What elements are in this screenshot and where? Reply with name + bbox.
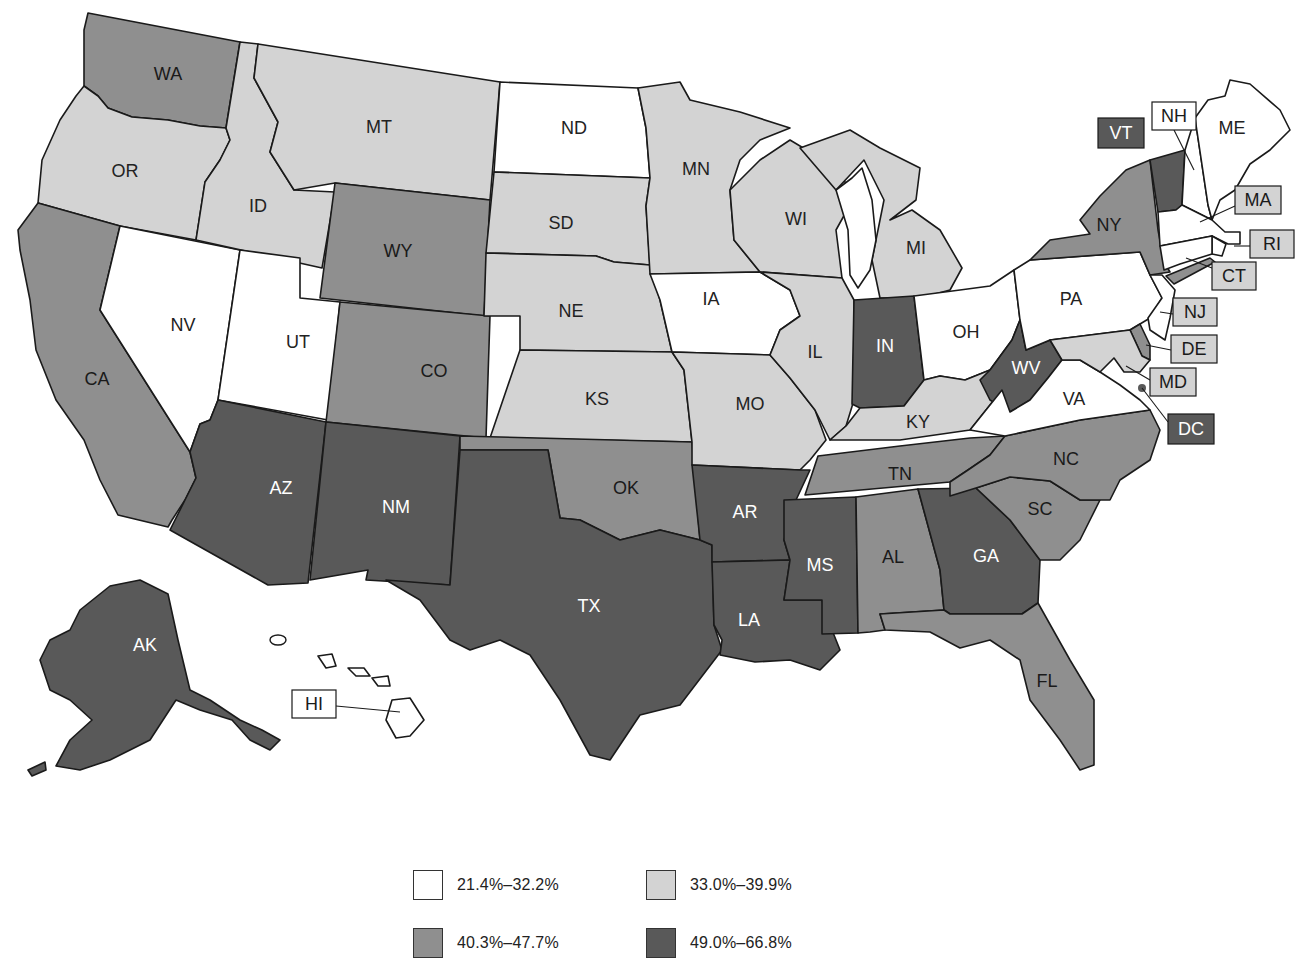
state-label-in: IN [876,336,894,356]
callout-label-ma: MA [1245,190,1272,210]
state-label-mt: MT [366,117,392,137]
state-label-al: AL [882,547,904,567]
callout-label-ct: CT [1222,266,1246,286]
callout-label-de: DE [1181,339,1206,359]
state-label-pa: PA [1060,289,1083,309]
callout-label-nh: NH [1161,106,1187,126]
state-label-ia: IA [702,289,719,309]
state-label-nm: NM [382,497,410,517]
state-label-or: OR [112,161,139,181]
state-AK[interactable] [40,580,280,770]
state-label-co: CO [421,361,448,381]
legend-swatch-3 [413,928,443,958]
state-label-ut: UT [286,332,310,352]
legend: 21.4%–32.2% 33.0%–39.9% 40.3%–47.7% 49.0… [413,870,833,970]
state-label-nc: NC [1053,449,1079,469]
state-label-ar: AR [732,502,757,522]
state-label-sd: SD [548,213,573,233]
legend-item-4: 49.0%–66.8% [646,928,792,958]
state-label-sc: SC [1027,499,1052,519]
state-UT[interactable] [218,250,340,420]
alaska-island[interactable] [28,762,46,776]
callout-label-ri: RI [1263,234,1281,254]
state-label-nv: NV [170,315,195,335]
callout-label-nj: NJ [1184,302,1206,322]
state-label-tx: TX [577,596,600,616]
callout-label-md: MD [1159,372,1187,392]
legend-label-4: 49.0%–66.8% [690,934,792,952]
state-label-ok: OK [613,478,639,498]
state-label-wa: WA [154,64,182,84]
state-label-mn: MN [682,159,710,179]
legend-item-2: 33.0%–39.9% [646,870,792,900]
legend-label-3: 40.3%–47.7% [457,934,559,952]
state-label-ks: KS [585,389,609,409]
state-label-fl: FL [1036,671,1057,691]
state-HI[interactable] [270,635,424,738]
state-label-wi: WI [785,209,807,229]
state-label-wv: WV [1012,358,1041,378]
state-label-ky: KY [906,412,930,432]
legend-label-1: 21.4%–32.2% [457,876,559,894]
callout-label-dc: DC [1178,419,1204,439]
state-FL[interactable] [880,603,1094,770]
legend-swatch-1 [413,870,443,900]
state-label-ga: GA [973,546,999,566]
state-label-ak: AK [133,635,157,655]
us-choropleth-map: WAORCANVIDMTWYUTCOAZNMNDSDNEKSOKTXMNIAMO… [0,0,1312,820]
callout-label-hi: HI [305,694,323,714]
callout-label-vt: VT [1109,123,1132,143]
legend-item-3: 40.3%–47.7% [413,928,559,958]
state-label-tn: TN [888,464,912,484]
state-CO[interactable] [326,302,490,438]
lake-michigan [836,168,876,288]
state-label-id: ID [249,196,267,216]
state-label-mi: MI [906,238,926,258]
state-label-ny: NY [1096,215,1121,235]
legend-swatch-2 [646,870,676,900]
state-label-oh: OH [953,322,980,342]
state-label-ms: MS [807,555,834,575]
state-label-ne: NE [558,301,583,321]
legend-item-1: 21.4%–32.2% [413,870,559,900]
legend-label-2: 33.0%–39.9% [690,876,792,894]
state-label-mo: MO [736,394,765,414]
state-label-il: IL [807,342,822,362]
state-label-ca: CA [84,369,109,389]
state-label-nd: ND [561,118,587,138]
legend-swatch-4 [646,928,676,958]
state-label-la: LA [738,610,760,630]
state-label-va: VA [1063,389,1086,409]
state-label-az: AZ [269,478,292,498]
state-label-wy: WY [384,241,413,261]
state-label-me: ME [1219,118,1246,138]
